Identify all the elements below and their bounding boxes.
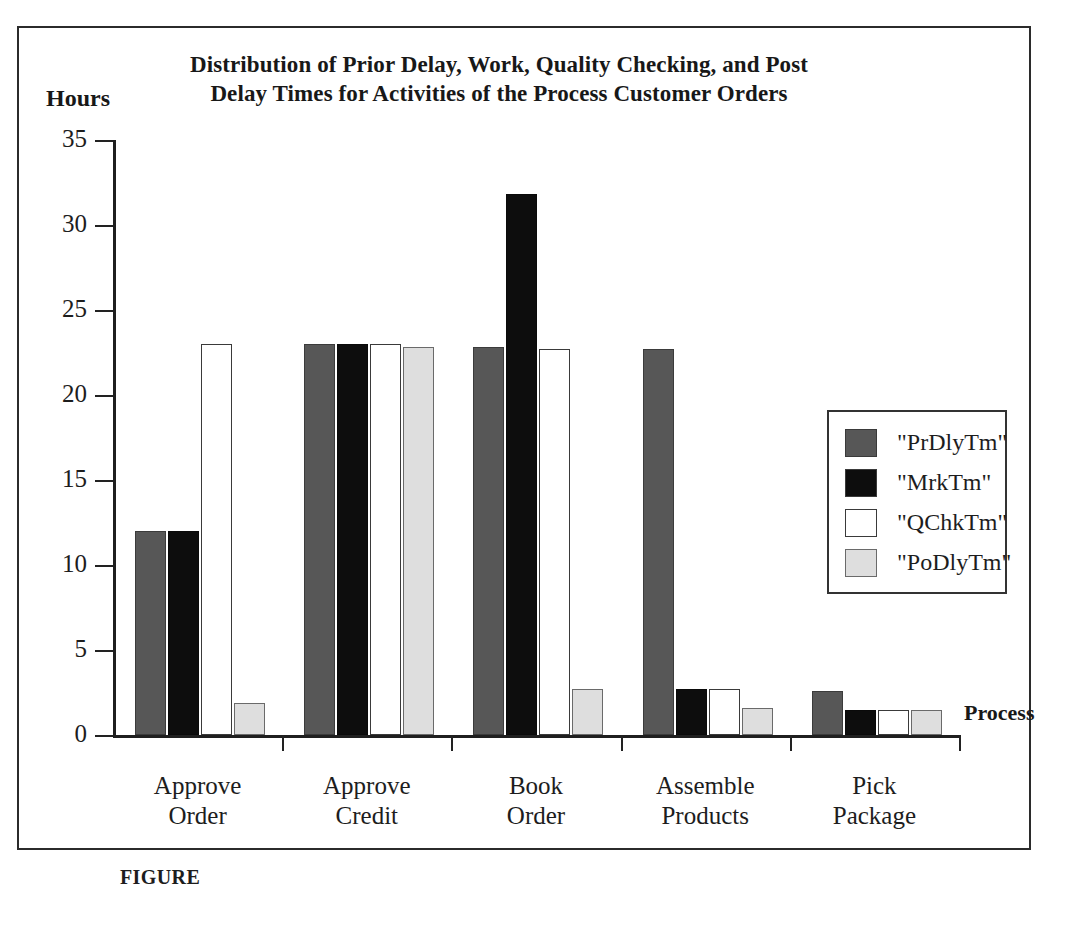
legend-item-label: "PrDlyTm" [897, 426, 1007, 458]
x-axis-category-label-line: Order [103, 801, 293, 831]
y-axis-tick-label: 20 [31, 381, 87, 406]
x-axis-category-label: AssembleProducts [610, 771, 800, 831]
y-axis-tick-mark [95, 650, 113, 652]
legend-item-label: "PoDlyTm" [897, 546, 1011, 578]
x-axis-tick-mark [621, 735, 623, 751]
x-axis-category-label-line: Book [441, 771, 631, 801]
y-axis-tick-label: 30 [31, 211, 87, 236]
bar [878, 710, 909, 736]
bar [539, 349, 570, 735]
bar [709, 689, 740, 735]
bar [168, 531, 199, 735]
x-axis-tick-mark [451, 735, 453, 751]
bar [742, 708, 773, 735]
bar [845, 710, 876, 736]
y-axis-tick-label: 10 [31, 551, 87, 576]
bar [473, 347, 504, 735]
y-axis-line [113, 140, 116, 735]
bar [370, 344, 401, 735]
x-axis-category-label-line: Pick [779, 771, 969, 801]
figure-caption: FIGURE [120, 866, 200, 889]
legend-swatch-icon [845, 549, 877, 577]
figure-frame: Distribution of Prior Delay, Work, Quali… [17, 26, 1031, 850]
y-axis-tick-mark [95, 395, 113, 397]
y-axis-tick-mark [95, 310, 113, 312]
y-axis-tick-label: 15 [31, 466, 87, 491]
x-axis-category-label-line: Package [779, 801, 969, 831]
y-axis-tick-mark [95, 735, 113, 737]
x-axis-category-label-line: Approve [272, 771, 462, 801]
bar [812, 691, 843, 735]
bar [572, 689, 603, 735]
bar [643, 349, 674, 735]
bar [135, 531, 166, 735]
y-axis-tick-label: 0 [31, 721, 87, 746]
bar [403, 347, 434, 735]
legend-item-label: "QChkTm" [897, 506, 1007, 538]
x-axis-category-label: BookOrder [441, 771, 631, 831]
legend-item-label: "MrkTm" [897, 466, 991, 498]
x-axis-tick-mark [959, 735, 961, 751]
x-axis-category-label-line: Credit [272, 801, 462, 831]
x-axis-category-label-line: Order [441, 801, 631, 831]
x-axis-category-label: PickPackage [779, 771, 969, 831]
legend-swatch-icon [845, 509, 877, 537]
x-axis-category-label-line: Products [610, 801, 800, 831]
legend-swatch-icon [845, 469, 877, 497]
bar [911, 710, 942, 736]
y-axis-tick-mark [95, 225, 113, 227]
y-axis-tick-label: 25 [31, 296, 87, 321]
legend-swatch-icon [845, 429, 877, 457]
x-axis-tick-mark [282, 735, 284, 751]
x-axis-line [113, 735, 959, 738]
chart-legend: "PrDlyTm""MrkTm""QChkTm""PoDlyTm" [827, 410, 1007, 594]
x-axis-tick-mark [790, 735, 792, 751]
bar [201, 344, 232, 735]
bar [337, 344, 368, 735]
y-axis-tick-mark [95, 480, 113, 482]
x-axis-category-label: ApproveCredit [272, 771, 462, 831]
bar [234, 703, 265, 735]
bar [676, 689, 707, 735]
x-axis-category-label-line: Assemble [610, 771, 800, 801]
y-axis-tick-mark [95, 565, 113, 567]
x-axis-category-label-line: Approve [103, 771, 293, 801]
bar [506, 194, 537, 735]
y-axis-tick-label: 5 [31, 636, 87, 661]
bar [304, 344, 335, 735]
y-axis-tick-mark [95, 140, 113, 142]
x-axis-category-label: ApproveOrder [103, 771, 293, 831]
y-axis-tick-label: 35 [31, 126, 87, 151]
